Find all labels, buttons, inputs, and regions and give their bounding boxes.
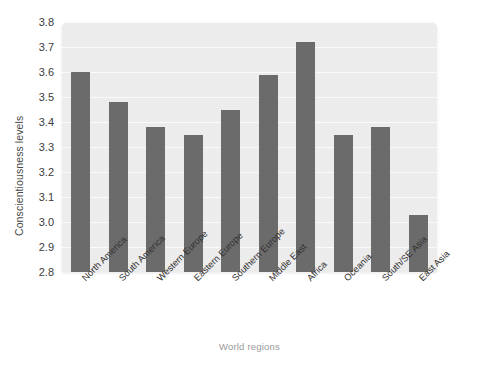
bar-chart-figure: Conscientiousness levels 2.82.93.03.13.2… [0, 0, 482, 366]
bar [296, 42, 315, 272]
y-axis-title: Conscientiousness levels [13, 0, 27, 56]
y-axis-tick-label: 2.8 [28, 266, 54, 278]
x-axis-tick-label: Oceania [342, 276, 349, 283]
y-axis-title-text: Conscientiousness levels [13, 56, 25, 236]
x-axis-tick-label: Southern Europe [230, 276, 237, 283]
y-axis-tick-label: 3.4 [28, 116, 54, 128]
x-axis-tick-label: Africa [305, 276, 312, 283]
y-axis-tick-label: 3.2 [28, 166, 54, 178]
x-axis-title: World regions [62, 341, 437, 352]
x-axis-tick-label: South America [117, 276, 124, 283]
x-axis-tick-label: Eastern Europe [192, 276, 199, 283]
y-axis-tick-label: 3.7 [28, 41, 54, 53]
y-axis-tick-label: 3.0 [28, 216, 54, 228]
x-axis-tick-label: Middle East [267, 276, 274, 283]
bars-layer [62, 22, 437, 272]
x-axis-tick-label: South/SE Asia [380, 276, 387, 283]
x-axis-tick-label: Western Europe [155, 276, 162, 283]
y-axis-tick-label: 3.5 [28, 91, 54, 103]
y-axis-tick-label: 3.8 [28, 16, 54, 28]
x-axis-tick-label: East Asia [417, 276, 424, 283]
y-axis-tick-label: 2.9 [28, 241, 54, 253]
x-axis-tick-labels: North AmericaSouth AmericaWestern Europe… [62, 272, 437, 332]
plot-area [62, 22, 437, 272]
bar [334, 135, 353, 273]
x-axis-tick-label: North America [80, 276, 87, 283]
bar [71, 72, 90, 272]
bar [371, 127, 390, 272]
y-axis-tick-label: 3.6 [28, 66, 54, 78]
y-axis-tick-label: 3.1 [28, 191, 54, 203]
y-axis-tick-label: 3.3 [28, 141, 54, 153]
y-axis-tick-labels: 2.82.93.03.13.23.33.43.53.63.73.8 [28, 22, 54, 272]
